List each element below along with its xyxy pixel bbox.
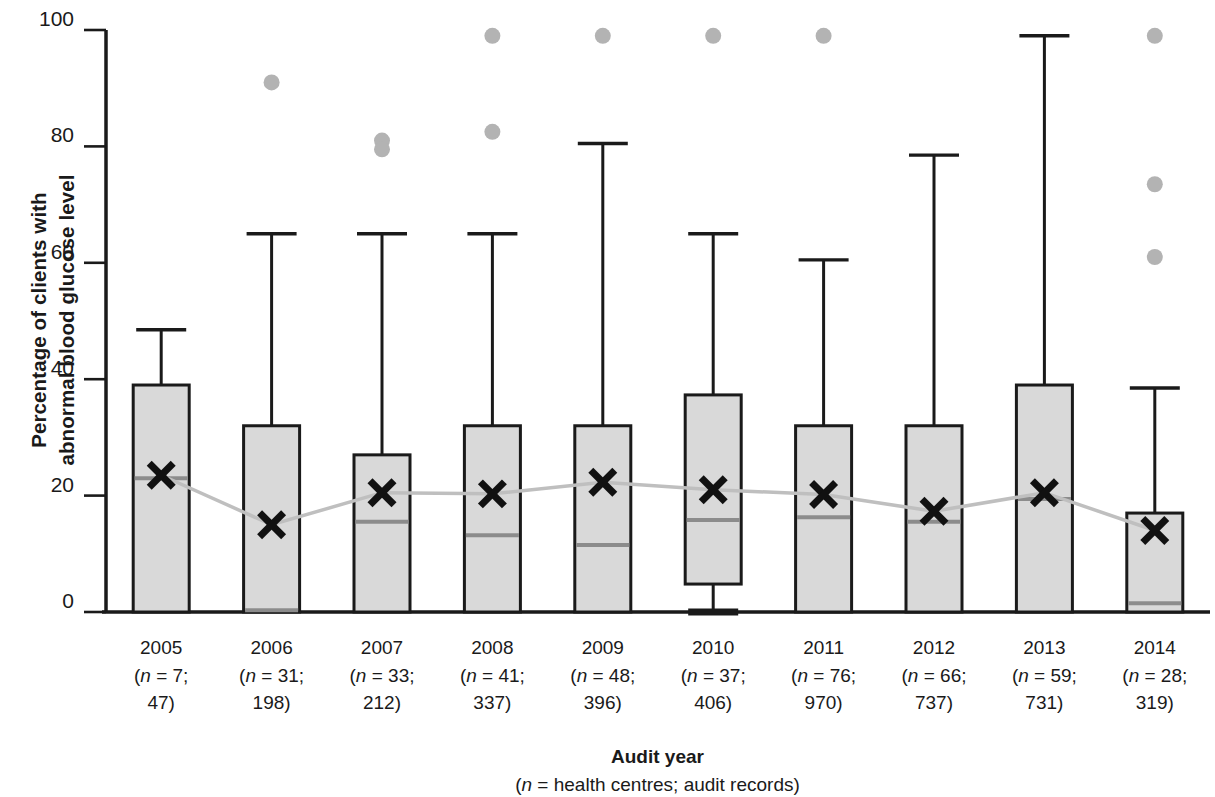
x-counts-line1-2010: (n = 37; [652, 662, 774, 690]
box-2005 [133, 385, 189, 612]
x-category-label-2013: 2013(n = 59;731) [983, 634, 1105, 717]
x-category-counts-2012: (n = 66;737) [873, 662, 995, 717]
x-category-counts-2011: (n = 76;970) [762, 662, 884, 717]
outlier-2007-1 [374, 141, 390, 157]
x-counts-line2-2011: 970) [762, 689, 884, 717]
italic-n-2007: n [356, 665, 367, 686]
box-2007 [354, 455, 410, 612]
x-axis-title-block: Audit year (n = health centres; audit re… [105, 744, 1210, 797]
x-counts-line1-2012: (n = 66; [873, 662, 995, 690]
mean-trend-line [161, 475, 1155, 530]
x-counts-line1-2011: (n = 76; [762, 662, 884, 690]
x-counts-line2-2009: 396) [542, 689, 664, 717]
x-category-counts-2013: (n = 59;731) [983, 662, 1105, 717]
x-axis-subtitle: (n = health centres; audit records) [105, 772, 1210, 797]
x-category-label-2005: 2005(n = 7;47) [100, 634, 222, 717]
x-category-year-2012: 2012 [873, 634, 995, 662]
x-counts-line1-2013: (n = 59; [983, 662, 1105, 690]
x-axis-subtitle-n: n [522, 774, 533, 795]
y-tick-label-20: 20 [14, 474, 74, 495]
x-category-label-2010: 2010(n = 37;406) [652, 634, 774, 717]
x-counts-line1-2008: (n = 41; [431, 662, 553, 690]
box-2008 [464, 426, 520, 612]
italic-n-2010: n [687, 665, 698, 686]
x-category-label-2009: 2009(n = 48;396) [542, 634, 664, 717]
y-tick-label-40: 40 [14, 357, 74, 378]
x-category-year-2014: 2014 [1094, 634, 1215, 662]
x-category-label-2006: 2006(n = 31;198) [210, 634, 332, 717]
x-category-year-2005: 2005 [100, 634, 222, 662]
outlier-2014-1 [1147, 176, 1163, 192]
box-2009 [575, 426, 631, 612]
x-category-year-2009: 2009 [542, 634, 664, 662]
y-tick-label-100: 100 [14, 8, 74, 29]
x-category-label-2008: 2008(n = 41;337) [431, 634, 553, 717]
italic-n-2006: n [245, 665, 256, 686]
x-category-label-2014: 2014(n = 28;319) [1094, 634, 1215, 717]
x-counts-line2-2010: 406) [652, 689, 774, 717]
outlier-2011-0 [816, 28, 832, 44]
x-category-year-2010: 2010 [652, 634, 774, 662]
italic-n-2013: n [1018, 665, 1029, 686]
x-counts-line1-2007: (n = 33; [321, 662, 443, 690]
outlier-2008-0 [484, 28, 500, 44]
box-2012 [906, 426, 962, 612]
x-category-counts-2007: (n = 33;212) [321, 662, 443, 717]
italic-n-2009: n [577, 665, 588, 686]
outlier-2008-1 [484, 124, 500, 140]
outlier-2014-0 [1147, 28, 1163, 44]
italic-n-2005: n [140, 665, 151, 686]
x-counts-line2-2013: 731) [983, 689, 1105, 717]
y-tick-label-80: 80 [14, 124, 74, 145]
y-tick-label-60: 60 [14, 241, 74, 262]
x-category-counts-2006: (n = 31;198) [210, 662, 332, 717]
x-counts-line2-2005: 47) [100, 689, 222, 717]
outlier-2009-0 [595, 28, 611, 44]
x-category-counts-2010: (n = 37;406) [652, 662, 774, 717]
italic-n-2014: n [1129, 665, 1140, 686]
x-counts-line2-2007: 212) [321, 689, 443, 717]
y-tick-label-0: 0 [14, 590, 74, 611]
x-category-year-2007: 2007 [321, 634, 443, 662]
box-plot-figure: Percentage of clients with abnormal bloo… [0, 0, 1215, 797]
outlier-2006-0 [264, 74, 280, 90]
x-axis-subtitle-rest: = health centres; audit records) [532, 774, 800, 795]
x-category-year-2011: 2011 [762, 634, 884, 662]
x-counts-line1-2014: (n = 28; [1094, 662, 1215, 690]
x-category-year-2006: 2006 [210, 634, 332, 662]
italic-n-2008: n [466, 665, 477, 686]
x-category-counts-2014: (n = 28;319) [1094, 662, 1215, 717]
outlier-2010-0 [705, 28, 721, 44]
x-category-year-2013: 2013 [983, 634, 1105, 662]
x-category-label-2012: 2012(n = 66;737) [873, 634, 995, 717]
x-counts-line2-2006: 198) [210, 689, 332, 717]
x-counts-line1-2009: (n = 48; [542, 662, 664, 690]
italic-n-2012: n [908, 665, 919, 686]
outlier-2014-2 [1147, 249, 1163, 265]
x-axis-title: Audit year [105, 744, 1210, 770]
x-counts-line2-2014: 319) [1094, 689, 1215, 717]
x-category-counts-2009: (n = 48;396) [542, 662, 664, 717]
x-counts-line2-2008: 337) [431, 689, 553, 717]
x-category-counts-2005: (n = 7;47) [100, 662, 222, 717]
x-category-label-2011: 2011(n = 76;970) [762, 634, 884, 717]
x-category-label-2007: 2007(n = 33;212) [321, 634, 443, 717]
x-category-counts-2008: (n = 41;337) [431, 662, 553, 717]
x-category-year-2008: 2008 [431, 634, 553, 662]
x-counts-line1-2005: (n = 7; [100, 662, 222, 690]
x-counts-line1-2006: (n = 31; [210, 662, 332, 690]
italic-n-2011: n [797, 665, 808, 686]
x-counts-line2-2012: 737) [873, 689, 995, 717]
